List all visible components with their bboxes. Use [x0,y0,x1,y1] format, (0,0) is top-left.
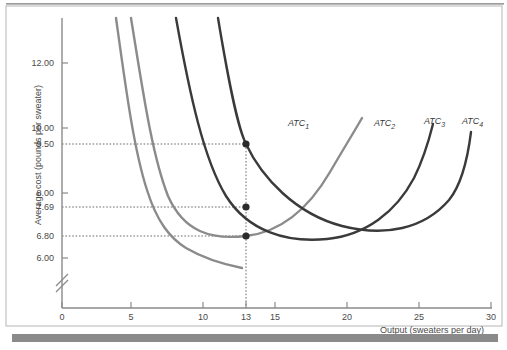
curve-label-atc2-text: ATC [374,118,391,128]
marker-13-950 [242,140,249,147]
x-tick-label-30: 30 [478,312,504,322]
y-tick-label-800: 8.00 [8,188,54,198]
curve-label-atc1-sub: 1 [305,123,309,130]
y-tick-label-950: 9.50 [8,139,54,149]
curve-label-atc1: ATC1 [288,118,309,130]
y-axis-title: Average cost (pounds per sweater) [33,55,43,255]
x-tick-label-15: 15 [262,312,288,322]
x-tick-label-0: 0 [49,312,75,322]
y-tick-label-1200: 12.00 [8,58,54,68]
x-tick-label-20: 20 [334,312,360,322]
marker-13-769 [242,203,249,210]
curve-label-atc4: ATC4 [462,116,483,128]
curve-label-atc3-text: ATC [424,116,441,126]
x-tick-label-5: 5 [118,312,144,322]
y-tick-label-680: 6.80 [8,231,54,241]
y-tick-marks [62,63,68,258]
y-tick-label-769: 7.69 [8,202,54,212]
figure-border [6,6,502,326]
bottom-accent-bar [12,334,498,342]
marker-13-680 [242,232,249,239]
x-tick-label-25: 25 [406,312,432,322]
chart-plot-area [0,0,507,350]
curve-atc1 [116,18,242,268]
curve-label-atc2: ATC2 [374,118,395,130]
y-tick-label-1000: 10.00 [8,123,54,133]
curve-label-atc4-sub: 4 [479,121,483,128]
x-tick-label-10: 10 [190,312,216,322]
guideline-group [62,144,246,308]
curve-label-atc4-text: ATC [462,116,479,126]
curve-label-atc3: ATC3 [424,116,445,128]
x-tick-marks [62,302,491,308]
curve-label-atc3-sub: 3 [441,121,445,128]
curve-label-atc2-sub: 2 [391,123,395,130]
x-tick-label-13: 13 [233,312,259,322]
y-tick-label-600: 6.00 [8,253,54,263]
curve-label-atc1-text: ATC [288,118,305,128]
figure-container: 12.00 10.00 9.50 8.00 7.69 6.80 6.00 0 5… [0,0,507,350]
